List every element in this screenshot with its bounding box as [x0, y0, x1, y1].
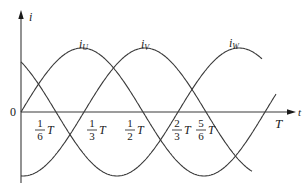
y-axis-arrow-icon [18, 10, 23, 19]
svg-text:2: 2 [174, 117, 180, 129]
svg-text:iW: iW [229, 36, 240, 51]
tick-label-1-2T: 1 2 T [125, 117, 145, 142]
period-label: T [275, 116, 283, 131]
three-phase-current-diagram: i t 0 T iU iV iW 1 6 T 1 3 T 1 2 T 2 3 T… [0, 0, 305, 187]
svg-text:T: T [184, 123, 192, 137]
curve-label-iu: iU [79, 37, 89, 52]
tick-label-1-3T: 1 3 T [87, 117, 107, 142]
svg-text:6: 6 [37, 130, 43, 142]
tick-label-5-6T: 5 6 T [196, 117, 216, 142]
t-axis-arrow-icon [287, 109, 296, 114]
svg-text:iV: iV [141, 37, 150, 52]
origin-label: 0 [10, 105, 16, 119]
svg-text:T: T [208, 123, 216, 137]
svg-text:1: 1 [37, 117, 43, 129]
svg-text:5: 5 [198, 117, 204, 129]
svg-text:6: 6 [198, 130, 204, 142]
curve-label-iw: iW [229, 36, 240, 51]
svg-text:T: T [99, 123, 107, 137]
tick-label-2-3T: 2 3 T [172, 117, 192, 142]
curve-label-iv: iV [141, 37, 150, 52]
y-axis-label: i [29, 10, 32, 24]
svg-text:2: 2 [127, 130, 133, 142]
svg-text:3: 3 [174, 130, 180, 142]
svg-text:T: T [137, 123, 145, 137]
tick-label-1-6T: 1 6 T [35, 117, 55, 142]
svg-text:3: 3 [89, 130, 95, 142]
svg-text:iU: iU [79, 37, 89, 52]
svg-text:T: T [47, 123, 55, 137]
svg-text:1: 1 [89, 117, 95, 129]
x-axis-label: t [298, 106, 302, 118]
svg-text:1: 1 [127, 117, 133, 129]
axes [21, 16, 289, 183]
